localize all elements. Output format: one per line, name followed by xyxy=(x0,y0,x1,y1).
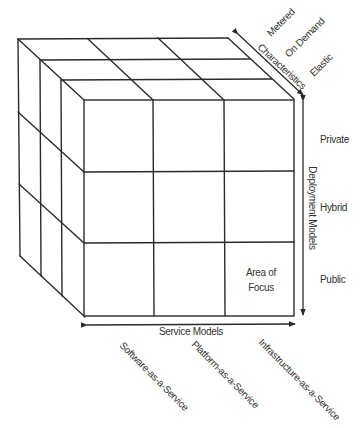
service-models-arrow xyxy=(87,324,295,325)
characteristics-item-on-demand: On Demand xyxy=(283,15,327,59)
deployment-models-axis: Deployment Models Private Hybrid Public xyxy=(303,101,350,315)
area-of-focus-label: Area of Focus xyxy=(246,267,277,293)
service-item-iaas: Infrastructure-as-a-Service xyxy=(257,337,343,423)
cube-left-face xyxy=(18,39,85,317)
characteristics-item-metered: Metered xyxy=(265,6,297,38)
characteristics-item-elastic: Elastic xyxy=(308,51,335,78)
cloud-cube-diagram: Area of Focus Service Models Software-as… xyxy=(0,0,363,428)
service-item-paas: Platform-as-a-Service xyxy=(190,339,262,411)
deployment-item-private: Private xyxy=(320,134,350,145)
deployment-item-hybrid: Hybrid xyxy=(320,202,347,213)
service-item-saas: Software-as-a-Service xyxy=(118,340,192,414)
deployment-item-public: Public xyxy=(320,274,346,285)
service-models-title: Service Models xyxy=(159,326,223,337)
area-of-focus-line-1: Area of xyxy=(246,267,277,278)
area-of-focus-line-2: Focus xyxy=(248,282,274,293)
deployment-models-title: Deployment Models xyxy=(307,166,318,250)
characteristics-axis: Characteristics Metered On Demand Elasti… xyxy=(238,6,335,95)
service-models-axis: Service Models Software-as-a-Service Pla… xyxy=(87,324,343,423)
